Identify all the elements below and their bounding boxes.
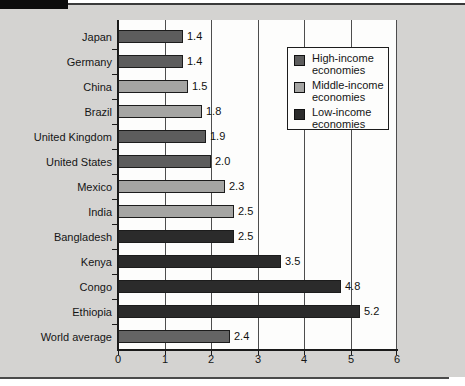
x-tick-label-1: 1: [155, 353, 175, 366]
x-tick-label-0: 0: [108, 353, 128, 366]
bar-united-kingdom: [118, 130, 206, 143]
bar-value-label: 3.5: [285, 255, 300, 268]
bar-united-states: [118, 155, 211, 168]
bar-value-label: 2.0: [215, 155, 230, 168]
bar-congo: [118, 280, 341, 293]
y-tick-11: [112, 299, 118, 300]
gridline-x6: [396, 20, 397, 349]
category-label-bangladesh: Bangladesh: [0, 230, 112, 244]
bar-ethiopia: [118, 305, 360, 318]
category-label-kenya: Kenya: [0, 255, 112, 269]
bar-germany: [118, 55, 183, 68]
top-rule: [0, 3, 465, 5]
legend-label: Low-income economies: [312, 107, 384, 130]
bar-value-label: 5.2: [364, 305, 379, 318]
legend: High-income economiesMiddle-income econo…: [287, 47, 389, 130]
legend-item-middle-income: Middle-income economies: [294, 80, 384, 103]
bottom-rule: [0, 377, 449, 379]
bar-value-label: 1.9: [210, 130, 225, 143]
y-tick-6: [112, 174, 118, 175]
bar-bangladesh: [118, 230, 234, 243]
y-tick-4: [112, 124, 118, 125]
y-tick-2: [112, 74, 118, 75]
x-tick-label-3: 3: [248, 353, 268, 366]
category-label-united-states: United States: [0, 155, 112, 169]
x-tick-label-5: 5: [341, 353, 361, 366]
bar-value-label: 1.8: [206, 105, 221, 118]
category-label-ethiopia: Ethiopia: [0, 305, 112, 319]
legend-swatch-middle-income: [294, 82, 305, 93]
bar-brazil: [118, 105, 202, 118]
y-tick-8: [112, 224, 118, 225]
category-label-mexico: Mexico: [0, 180, 112, 194]
bar-india: [118, 205, 234, 218]
category-label-world-average: World average: [0, 330, 112, 344]
y-tick-9: [112, 249, 118, 250]
bar-value-label: 1.5: [192, 80, 207, 93]
bar-value-label: 1.4: [187, 30, 202, 43]
legend-swatch-low-income: [294, 109, 305, 120]
category-label-congo: Congo: [0, 280, 112, 294]
figure-tab: [0, 0, 68, 9]
category-label-germany: Germany: [0, 55, 112, 69]
legend-label: High-income economies: [312, 53, 384, 76]
x-tick-label-2: 2: [201, 353, 221, 366]
category-label-united-kingdom: United Kingdom: [0, 130, 112, 144]
bar-china: [118, 80, 188, 93]
bar-value-label: 2.4: [234, 330, 249, 343]
bar-value-label: 2.3: [229, 180, 244, 193]
x-tick-label-6: 6: [387, 353, 407, 366]
legend-label: Middle-income economies: [312, 80, 384, 103]
bar-value-label: 1.4: [187, 55, 202, 68]
bar-kenya: [118, 255, 281, 268]
bar-world-average: [118, 330, 230, 343]
y-tick-1: [112, 49, 118, 50]
legend-item-high-income: High-income economies: [294, 53, 384, 76]
category-label-china: China: [0, 80, 112, 94]
gridline-x3: [258, 20, 259, 349]
figure-page: 1.41.41.51.81.92.02.32.52.53.54.85.22.4 …: [0, 0, 465, 386]
x-tick-label-4: 4: [294, 353, 314, 366]
legend-item-low-income: Low-income economies: [294, 107, 384, 130]
bar-value-label: 4.8: [345, 280, 360, 293]
category-label-brazil: Brazil: [0, 105, 112, 119]
y-tick-10: [112, 274, 118, 275]
y-tick-3: [112, 99, 118, 100]
y-tick-5: [112, 149, 118, 150]
legend-swatch-high-income: [294, 55, 305, 66]
bar-value-label: 2.5: [238, 205, 253, 218]
y-tick-12: [112, 324, 118, 325]
bar-mexico: [118, 180, 225, 193]
bar-japan: [118, 30, 183, 43]
y-tick-7: [112, 199, 118, 200]
bar-value-label: 2.5: [238, 230, 253, 243]
category-label-india: India: [0, 205, 112, 219]
category-label-japan: Japan: [0, 30, 112, 44]
